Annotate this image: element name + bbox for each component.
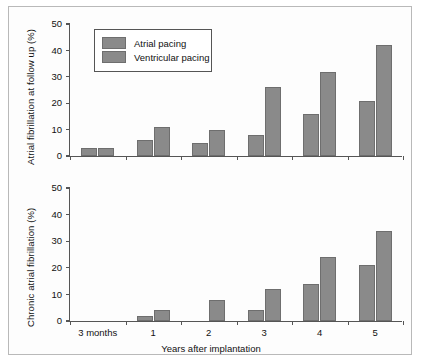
legend-label-atrial: Atrial pacing <box>134 38 186 49</box>
bar-top-3-months-atrial <box>81 148 97 156</box>
bar-top-3-ventricular <box>265 87 281 156</box>
bar-group-bottom <box>70 189 402 321</box>
y-tick-mark <box>66 129 70 130</box>
y-tick-label: 0 <box>57 151 62 161</box>
y-tick-label: 0 <box>57 316 62 326</box>
y-tick-label: 40 <box>51 210 62 220</box>
x-tick-mark <box>292 156 293 160</box>
x-tick-mark <box>237 321 238 325</box>
y-tick-label: 30 <box>51 236 62 246</box>
y-tick-label: 50 <box>51 19 62 29</box>
y-tick-mark <box>66 241 70 242</box>
bar-top-4-ventricular <box>320 72 336 156</box>
legend-swatch-icon-ventricular <box>102 51 126 63</box>
y-tick-mark <box>66 23 70 24</box>
x-tick-mark <box>403 156 404 160</box>
bar-top-5-atrial <box>359 101 375 156</box>
x-tick-label-2: 2 <box>206 327 211 338</box>
chart-legend: Atrial pacing Ventricular pacing <box>94 29 212 72</box>
bar-top-3-atrial <box>248 135 264 156</box>
y-tick-label: 40 <box>51 46 62 56</box>
x-tick-mark <box>70 156 71 160</box>
chart-panel-top: Atrial fibrillation at follow up (%) 010… <box>9 7 413 179</box>
bar-bottom-1-atrial <box>137 316 153 321</box>
y-tick-mark <box>66 294 70 295</box>
x-tick-mark <box>181 156 182 160</box>
y-tick-label: 30 <box>51 72 62 82</box>
bar-top-2-ventricular <box>209 130 225 156</box>
x-tick-mark <box>181 321 182 325</box>
bar-bottom-2-ventricular <box>209 300 225 321</box>
x-tick-mark <box>126 321 127 325</box>
bar-top-3-months-ventricular <box>98 148 114 156</box>
y-tick-mark <box>66 103 70 104</box>
bar-bottom-5-ventricular <box>376 231 392 321</box>
chart-panel-bottom: Chronic atrial fibrillation (%) 01020304… <box>9 179 413 354</box>
y-tick-label: 50 <box>51 183 62 193</box>
bar-top-1-ventricular <box>154 127 170 156</box>
x-tick-mark <box>292 321 293 325</box>
bar-top-2-atrial <box>192 143 208 156</box>
bar-bottom-4-atrial <box>303 284 319 321</box>
bar-bottom-5-atrial <box>359 265 375 321</box>
x-tick-label-3: 3 <box>262 327 267 338</box>
y-tick-label: 10 <box>51 290 62 300</box>
bar-top-5-ventricular <box>376 45 392 156</box>
bar-bottom-3-atrial <box>248 310 264 321</box>
x-tick-mark <box>70 321 71 325</box>
bar-bottom-3-ventricular <box>265 289 281 321</box>
legend-label-ventricular: Ventricular pacing <box>134 52 210 63</box>
y-tick-mark <box>66 267 70 268</box>
x-tick-label-3-months: 3 months <box>78 327 117 338</box>
y-tick-mark <box>66 214 70 215</box>
y-tick-label: 10 <box>51 125 62 135</box>
x-tick-mark <box>403 321 404 325</box>
y-axis-label-bottom: Chronic atrial fibrillation (%) <box>25 208 36 327</box>
x-tick-mark <box>126 156 127 160</box>
legend-swatch-icon-atrial <box>102 37 126 49</box>
legend-item-atrial-pacing: Atrial pacing <box>102 37 204 49</box>
x-tick-label-5: 5 <box>373 327 378 338</box>
bar-top-1-atrial <box>137 140 153 156</box>
x-tick-mark <box>348 321 349 325</box>
bar-bottom-4-ventricular <box>320 257 336 321</box>
y-tick-label: 20 <box>51 263 62 273</box>
x-tick-label-4: 4 <box>317 327 322 338</box>
y-axis-label-top: Atrial fibrillation at follow up (%) <box>25 29 36 165</box>
x-tick-label-1: 1 <box>151 327 156 338</box>
bar-bottom-1-ventricular <box>154 310 170 321</box>
x-axis-title: Years after implantation <box>9 343 413 354</box>
legend-item-ventricular-pacing: Ventricular pacing <box>102 51 204 63</box>
figure-frame: Atrial fibrillation at follow up (%) 010… <box>8 6 412 355</box>
bar-top-4-atrial <box>303 114 319 156</box>
plot-area-bottom: 010203040503 months12345 <box>69 189 402 322</box>
x-tick-mark <box>348 156 349 160</box>
x-tick-mark <box>237 156 238 160</box>
y-tick-mark <box>66 187 70 188</box>
y-tick-mark <box>66 50 70 51</box>
y-tick-mark <box>66 76 70 77</box>
y-tick-label: 20 <box>51 98 62 108</box>
